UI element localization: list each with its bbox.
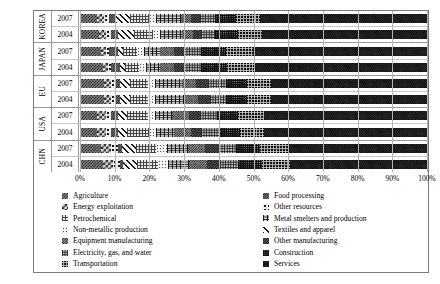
year-label: 2007 (52, 43, 79, 58)
bar-segment-equipment (172, 111, 189, 120)
x-tick-label: 40% (212, 174, 226, 183)
bar-segment-metal (155, 111, 172, 120)
group-label-text: USA (39, 116, 47, 132)
group-label-korea: KOREA (34, 11, 52, 42)
legend-column-right: Food processingOther resourcesMetal smel… (227, 190, 428, 272)
legend-swatch-construction-icon (263, 250, 269, 256)
bar-segment-petrochemical (123, 47, 137, 56)
bar-segment-construction (236, 144, 260, 153)
legend-label: Metal smelters and production (274, 215, 367, 223)
bar-segment-electricity (220, 160, 237, 169)
plot-area: KOREA20072004JAPAN20072004EU20072004USA2… (34, 11, 428, 172)
bar-segment-transportation (260, 144, 288, 153)
bar-segment-equipment (182, 79, 196, 88)
bar-cell (79, 43, 428, 58)
bar-segment-agriculture (80, 95, 104, 104)
legend-label: Other resources (274, 203, 322, 211)
row-group-usa: USA20072004 (34, 108, 428, 140)
legend-item-metal: Metal smelters and production (263, 213, 428, 224)
bar-segment-textiles (118, 111, 127, 120)
bar-segment-agriculture (80, 111, 97, 120)
bar-segment-metal (167, 144, 188, 153)
legend-item-petrochemical: Petrochemical (62, 213, 227, 224)
bar-segment-nonmetallic (137, 47, 144, 56)
bar-segment-services (264, 111, 427, 120)
bar-segment-food (111, 128, 118, 137)
legend-label: Energy exploitation (73, 203, 133, 211)
legend-swatch-energy-icon (62, 204, 68, 210)
bar-segment-agriculture (80, 144, 101, 153)
bar-segment-petrochemical (134, 30, 153, 39)
bar-segment-construction (217, 111, 238, 120)
bar-segment-electricity (200, 14, 216, 23)
row-group-chn: CHN20072004 (34, 141, 428, 172)
bar-segment-othermfg (205, 144, 219, 153)
bar-segment-equipment (160, 63, 174, 72)
stacked-bar (80, 95, 427, 104)
bar-segment-services (253, 47, 427, 56)
legend-label: Food processing (274, 192, 324, 200)
bar-segment-construction (226, 95, 247, 104)
table-row: 2007 (52, 43, 428, 59)
legend-label: Non-metallic production (73, 226, 148, 234)
bar-segment-transportation (238, 30, 262, 39)
bar-segment-services (264, 128, 427, 137)
table-row: 2007 (52, 141, 428, 157)
year-label: 2004 (52, 27, 79, 42)
bar-segment-electricity (201, 30, 215, 39)
bar-segment-transportation (240, 128, 264, 137)
bar-segment-petrochemical (130, 79, 147, 88)
bar-segment-textiles (123, 160, 137, 169)
x-tick-label: 50% (247, 174, 261, 183)
bar-cell (79, 92, 428, 107)
bar-segment-services (290, 160, 427, 169)
bar-segment-equipment (182, 30, 192, 39)
stacked-bar (80, 128, 427, 137)
bar-cell (79, 141, 428, 156)
bar-segment-agriculture (80, 30, 99, 39)
legend-item-energy: Energy exploitation (62, 201, 227, 212)
bar-segment-food (111, 63, 120, 72)
x-tick-label: 90% (385, 174, 399, 183)
group-label-text: JAPAN (39, 47, 47, 71)
bar-segment-metal (160, 30, 183, 39)
row-group-korea: KOREA20072004 (34, 11, 428, 43)
bar-segment-transportation (247, 95, 271, 104)
bar-segment-metal (156, 14, 180, 23)
legend-item-construction: Construction (263, 247, 428, 258)
bar-segment-equipment (188, 144, 205, 153)
bar-segment-textiles (120, 79, 130, 88)
bar-segment-electricity (200, 111, 217, 120)
year-label: 2004 (52, 60, 79, 75)
x-axis-tick-labels: 0%10%20%30%40%50%60%70%80%90%100% (80, 174, 428, 186)
legend-label: Textiles and apparel (274, 226, 335, 234)
table-row: 2004 (52, 124, 428, 139)
bar-segment-transportation (247, 79, 271, 88)
bar-segment-food (109, 47, 118, 56)
bar-segment-metal (146, 63, 160, 72)
bar-segment-metal (155, 79, 183, 88)
bar-segment-transportation (236, 14, 260, 23)
legend-swatch-textiles-icon (263, 227, 269, 233)
group-label-chn: CHN (34, 141, 52, 172)
stacked-bar (80, 63, 427, 72)
stacked-bar (80, 47, 427, 56)
bar-segment-construction (238, 160, 262, 169)
year-label: 2004 (52, 157, 79, 172)
bar-segment-othermfg (198, 95, 210, 104)
bar-segment-petrochemical (127, 111, 148, 120)
bar-segment-energy (97, 128, 106, 137)
x-tick-label: 0% (75, 174, 85, 183)
year-label: 2007 (52, 108, 79, 123)
bar-segment-transportation (262, 160, 290, 169)
bar-segment-equipment (189, 160, 206, 169)
legend-item-transportation: Transportation (62, 258, 227, 269)
bar-segment-transportation (226, 47, 254, 56)
legend-swatch-nonmetallic-icon (62, 227, 68, 233)
bar-segment-nonmetallic (158, 160, 168, 169)
bar-segment-textiles (118, 128, 127, 137)
stacked-bar-chart: KOREA20072004JAPAN20072004EU20072004USA2… (0, 0, 440, 284)
bar-segment-nonmetallic (139, 63, 146, 72)
legend-label: Petrochemical (73, 215, 116, 223)
bar-segment-food (109, 14, 116, 23)
